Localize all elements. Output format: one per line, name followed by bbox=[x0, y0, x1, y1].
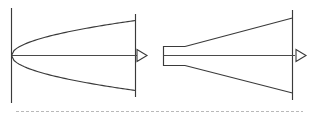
diagram-canvas bbox=[0, 0, 319, 118]
right-upper-nozzle-wall bbox=[185, 18, 293, 47]
right-flow-arrowhead-icon bbox=[296, 50, 306, 62]
left-flow-arrowhead-icon bbox=[137, 50, 147, 62]
figure-container bbox=[0, 0, 319, 118]
right-panel-group bbox=[164, 10, 307, 100]
left-lower-parabola-curve bbox=[12, 56, 136, 91]
left-upper-parabola-curve bbox=[12, 21, 136, 56]
right-lower-nozzle-wall bbox=[185, 66, 293, 94]
left-panel-group bbox=[12, 8, 148, 103]
